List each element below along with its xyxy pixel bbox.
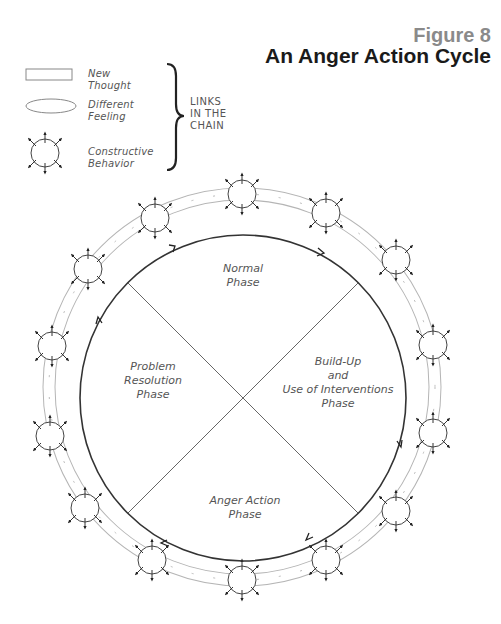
chain-label-line: IN THE (190, 108, 227, 120)
legend-label-line: Different (88, 99, 134, 111)
phase-normal: Normal Phase (198, 262, 288, 290)
behavior-node-icon (310, 540, 342, 580)
phase-label-line: Phase (108, 388, 198, 402)
legend-constructive-behavior-label: Constructive Behavior (88, 146, 154, 170)
diagram-canvas (0, 0, 501, 624)
phase-build-up: Build-Up and Use of Interventions Phase (268, 355, 408, 411)
legend-label-line: Constructive (88, 146, 154, 158)
legend-label-line: New (88, 68, 131, 80)
legend-new-thought-label: New Thought (88, 68, 131, 92)
phase-label-line: Anger Action (190, 494, 300, 508)
phase-label-line: Resolution (108, 374, 198, 388)
behavior-node-icon (380, 240, 412, 280)
legend-different-feeling-icon (26, 99, 76, 113)
phase-label-line: Build-Up (268, 355, 408, 369)
legend-label-line: Behavior (88, 158, 154, 170)
brace-icon (167, 64, 184, 170)
phase-label-line: Phase (190, 508, 300, 522)
legend-different-feeling-label: Different Feeling (88, 99, 134, 123)
chain-label-line: LINKS (190, 96, 227, 108)
legend-constructive-behavior-icon (29, 133, 61, 173)
phase-label-line: Phase (268, 397, 408, 411)
legend-label-line: Feeling (88, 111, 134, 123)
behavior-node-icon (310, 193, 342, 233)
phase-label-line: Phase (198, 276, 288, 290)
behavior-node-icon (226, 560, 258, 600)
phase-label-line: Use of Interventions (268, 383, 408, 397)
phase-label-line: Problem (108, 360, 198, 374)
phase-anger-action: Anger Action Phase (190, 494, 300, 522)
legend-new-thought-icon (26, 69, 72, 80)
phase-problem-resolution: Problem Resolution Phase (108, 360, 198, 402)
behavior-node-icon (226, 174, 258, 214)
legend-label-line: Thought (88, 80, 131, 92)
phase-label-line: Normal (198, 262, 288, 276)
links-in-the-chain-label: LINKS IN THE CHAIN (190, 96, 227, 132)
chain-label-line: CHAIN (190, 120, 227, 132)
phase-label-line: and (268, 369, 408, 383)
